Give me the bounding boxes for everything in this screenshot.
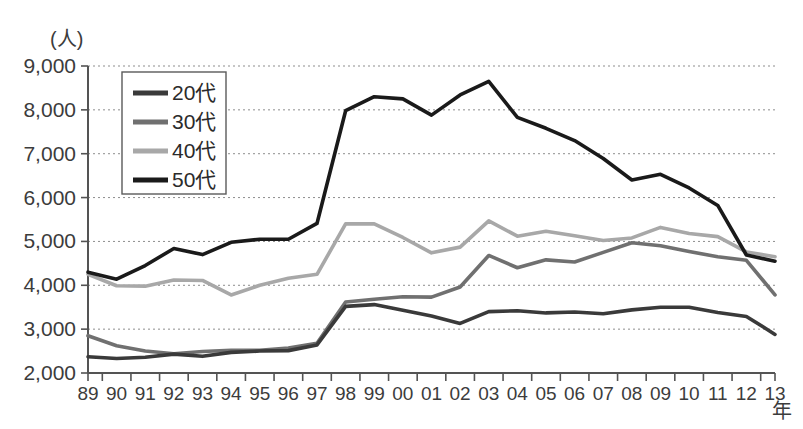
x-tick-label: 01 xyxy=(421,383,442,404)
x-tick-label: 05 xyxy=(535,383,556,404)
legend-label-50代: 50代 xyxy=(172,168,216,191)
x-tick-label: 07 xyxy=(593,383,614,404)
chart-canvas: 2,0003,0004,0005,0006,0007,0008,0009,000… xyxy=(0,0,803,429)
x-tick-label: 10 xyxy=(679,383,700,404)
series-line-30代 xyxy=(88,243,775,354)
legend-label-30代: 30代 xyxy=(172,110,216,133)
y-tick-label: 4,000 xyxy=(23,273,76,296)
x-tick-label: 93 xyxy=(192,383,213,404)
chart-legend: 20代30代40代50代 xyxy=(122,72,226,194)
x-tick-label: 02 xyxy=(450,383,471,404)
x-tick-label: 00 xyxy=(392,383,413,404)
x-tick-label: 04 xyxy=(507,383,529,404)
x-tick-label: 95 xyxy=(249,383,270,404)
y-axis-unit-label: (人) xyxy=(50,28,83,50)
x-axis-tick-labels: 8990919293949596979899000102030405060708… xyxy=(77,383,785,404)
y-tick-label: 9,000 xyxy=(23,54,76,77)
x-tick-label: 03 xyxy=(478,383,499,404)
x-tick-label: 94 xyxy=(221,383,243,404)
x-tick-label: 92 xyxy=(163,383,184,404)
y-tick-label: 7,000 xyxy=(23,142,76,165)
legend-label-40代: 40代 xyxy=(172,139,216,162)
x-tick-label: 09 xyxy=(650,383,671,404)
y-tick-label: 2,000 xyxy=(23,361,76,384)
x-tick-label: 98 xyxy=(335,383,356,404)
x-tick-label: 11 xyxy=(708,383,728,404)
series-line-20代 xyxy=(88,305,775,359)
x-tick-label: 90 xyxy=(106,383,127,404)
y-axis-tick-labels: 2,0003,0004,0005,0006,0007,0008,0009,000 xyxy=(23,54,76,384)
x-tick-label: 96 xyxy=(278,383,299,404)
x-tick-label: 99 xyxy=(364,383,385,404)
legend-label-20代: 20代 xyxy=(172,81,216,104)
y-tick-label: 6,000 xyxy=(23,186,76,209)
y-tick-label: 5,000 xyxy=(23,229,76,252)
y-tick-label: 3,000 xyxy=(23,317,76,340)
x-tick-label: 89 xyxy=(77,383,98,404)
x-axis-unit-label: 年 xyxy=(772,400,792,422)
line-chart-figure: 2,0003,0004,0005,0006,0007,0008,0009,000… xyxy=(0,0,803,429)
x-tick-label: 06 xyxy=(564,383,585,404)
series-line-40代 xyxy=(88,221,775,295)
x-tick-label: 08 xyxy=(621,383,642,404)
x-tick-label: 12 xyxy=(736,383,757,404)
y-tick-label: 8,000 xyxy=(23,98,76,121)
x-tick-label: 97 xyxy=(306,383,327,404)
x-tick-label: 91 xyxy=(135,383,156,404)
